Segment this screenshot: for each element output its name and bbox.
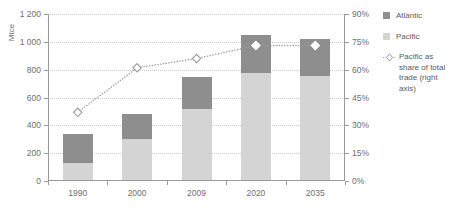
x-axis-tick [345,181,346,185]
y2-axis-tick [345,70,349,71]
share-marker-2009[interactable] [192,54,200,62]
y2-axis-tick-label: 0% [352,176,364,186]
y2-axis-tick [345,125,349,126]
share-marker-2020[interactable] [252,41,260,49]
plot-area: 02004006008001 0001 200 0%15%30%45%60%75… [48,14,345,181]
dotted-diamond-icon [383,53,396,62]
chart-legend: Atlantic Pacific Pacific as share of tot… [383,11,453,94]
x-axis-tick [226,181,227,185]
chart-container: Mtce 02004006008001 0001 200 0%15%30%45%… [0,0,453,208]
x-axis-tick [167,181,168,185]
x-axis-tick-label: 2000 [128,188,147,198]
legend-swatch-icon-atlantic [383,12,390,19]
x-axis-tick-label: 2035 [306,188,325,198]
y-axis-tick-label: 0 [36,176,41,186]
right-axis-spine [344,14,345,181]
x-axis-tick [48,181,49,185]
legend-item-pacific-share: Pacific as share of total trade (right a… [383,52,453,94]
y-axis-tick-label: 600 [27,93,41,103]
share-line-layer [48,14,345,181]
y2-axis-tick-label: 15% [352,148,369,158]
legend-label-atlantic: Atlantic [396,11,422,22]
y2-axis-tick [345,153,349,154]
plot-inner: 02004006008001 0001 200 0%15%30%45%60%75… [48,14,345,181]
x-axis-tick-label: 2020 [246,188,265,198]
legend-item-pacific: Pacific [383,32,453,43]
y-axis-tick-label: 1 200 [20,9,41,19]
y-axis-tick-label: 400 [27,120,41,130]
y2-axis-tick [345,14,349,15]
y-axis-tick-label: 1 000 [20,37,41,47]
y-axis-tick-label: 200 [27,148,41,158]
x-axis-tick-label: 1990 [68,188,87,198]
share-marker-1990[interactable] [74,108,82,116]
left-axis-spine [48,14,49,181]
y-axis-unit-label: Mtce [7,13,16,53]
y2-axis-tick-label: 45% [352,93,369,103]
x-axis-tick-label: 2009 [187,188,206,198]
bottom-axis-spine [48,180,345,181]
y2-axis-tick-label: 75% [352,37,369,47]
legend-swatch-icon-pacific [383,33,390,40]
x-axis-tick [107,181,108,185]
y-axis-tick-label: 800 [27,65,41,75]
y2-axis-tick-label: 30% [352,120,369,130]
y2-axis-tick-label: 90% [352,9,369,19]
legend-label-pacific: Pacific [396,32,420,43]
legend-label-pacific-share: Pacific as share of total trade (right a… [399,52,453,94]
y2-axis-tick [345,98,349,99]
x-axis-tick [286,181,287,185]
legend-item-atlantic: Atlantic [383,11,453,22]
share-marker-2035[interactable] [311,41,319,49]
y2-axis-tick-label: 60% [352,65,369,75]
y2-axis-tick [345,42,349,43]
